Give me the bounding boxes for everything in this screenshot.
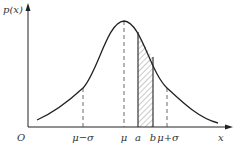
shaded-region-a-b	[138, 33, 153, 127]
normal-distribution-diagram: p(x) O x μ−σ μ a b μ+σ	[0, 0, 235, 151]
x-axis-arrow-icon	[225, 125, 233, 130]
y-axis-label: p(x)	[3, 4, 23, 15]
density-curve	[37, 21, 218, 123]
tick-label-mu-plus-sigma: μ+σ	[157, 132, 180, 143]
y-axis-arrow-icon	[26, 3, 31, 11]
tick-label-a: a	[135, 132, 141, 143]
origin-label: O	[17, 132, 25, 143]
tick-label-b: b	[150, 132, 156, 143]
x-axis-label: x	[218, 132, 224, 143]
tick-label-mu: μ	[121, 132, 128, 143]
tick-label-mu-minus-sigma: μ−σ	[72, 132, 95, 143]
